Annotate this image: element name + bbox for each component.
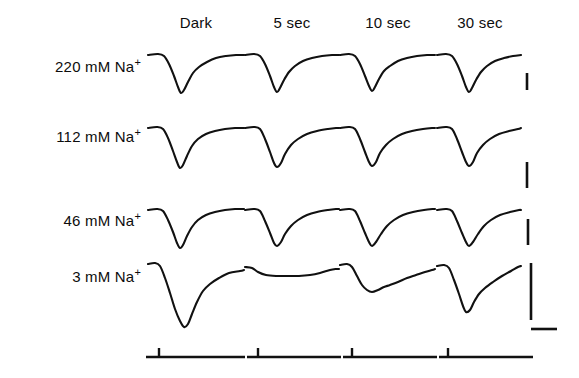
figure-panel: Dark 5 sec 10 sec 30 sec 220 mM Na+ 112 …: [0, 0, 579, 378]
timebase-traces: [0, 0, 579, 378]
